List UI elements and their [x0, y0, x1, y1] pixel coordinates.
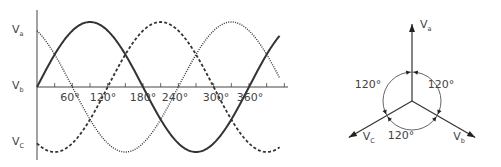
y-axis-labels: VaVbVC — [12, 23, 25, 150]
y-label-vb: Vb — [12, 79, 24, 94]
x-tick-label: 240° — [162, 91, 189, 104]
waveform-plot: VaVbVC 60°120°180°240°300°360° — [12, 10, 288, 160]
x-tick-label: 120° — [90, 91, 117, 104]
arc-arrow-icon — [406, 70, 411, 74]
phasor-label-vc-subscript: C — [370, 137, 375, 145]
x-tick-label: 180° — [130, 91, 157, 104]
x-axis-tick-labels: 60°120°180°240°300°360° — [60, 91, 263, 104]
y-label-va-subscript: a — [20, 30, 24, 38]
arc-arrow-icon — [382, 110, 386, 115]
x-tick-label: 60° — [60, 91, 80, 104]
angle-label-120: 120° — [355, 78, 382, 91]
phasor-diagram: VaVbVC 120°120°120° — [349, 18, 475, 145]
angle-label-120: 120° — [428, 78, 455, 91]
three-phase-diagram: VaVbVC 60°120°180°240°300°360° VaVbVC 12… — [0, 0, 501, 167]
x-tick-label: 360° — [237, 91, 264, 104]
y-label-vc-subscript: C — [20, 142, 25, 150]
phasor-label-vb-subscript: b — [461, 137, 465, 145]
y-label-vc: VC — [12, 135, 25, 150]
phasor-label-va: Va — [420, 18, 432, 33]
y-label-vb-subscript: b — [20, 86, 24, 94]
arc-arrow-icon — [413, 70, 418, 74]
y-label-va: Va — [12, 23, 24, 38]
arrowhead-icon — [467, 131, 475, 138]
arrowhead-icon — [349, 131, 357, 138]
vector-vb — [412, 101, 475, 138]
arc-arrow-icon — [437, 110, 441, 115]
phasor-label-va-subscript: a — [428, 25, 432, 33]
phasor-label-vc: VC — [363, 130, 376, 145]
x-tick-label: 300° — [203, 91, 230, 104]
phasor-label-vb: Vb — [453, 130, 465, 145]
angle-label-120: 120° — [388, 129, 415, 142]
arrowhead-icon — [409, 24, 415, 32]
